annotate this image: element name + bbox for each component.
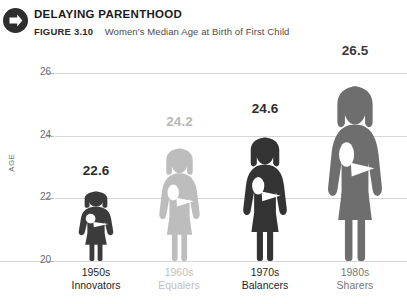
category-label-0: 1950s Innovators	[56, 266, 136, 291]
category-label-2: 1970s Balancers	[225, 266, 305, 291]
gridline-20	[0, 261, 407, 262]
value-label-1: 24.2	[166, 114, 192, 129]
chart-plot-area: 26 24 22 20 AGE 22.6 24.2	[0, 0, 407, 304]
woman-with-baby-icon-1	[148, 138, 211, 261]
category-label-3: 1980s Sharers	[315, 266, 395, 291]
ytick-label-24: 24	[21, 129, 51, 140]
ytick-label-20: 20	[21, 254, 51, 265]
ytick-label-22: 22	[21, 191, 51, 202]
value-label-0: 22.6	[83, 163, 109, 178]
category-label-2-line1: 1970s	[225, 266, 305, 279]
woman-with-baby-icon-3	[313, 70, 397, 261]
category-label-1-line1: 1960s	[139, 266, 219, 279]
pictogram-group-2: 24.6	[231, 126, 299, 261]
woman-with-baby-icon-2	[231, 126, 299, 261]
category-label-0-line1: 1950s	[56, 266, 136, 279]
category-label-3-line2: Sharers	[315, 279, 395, 292]
category-label-3-line1: 1980s	[315, 266, 395, 279]
category-label-2-line2: Balancers	[225, 279, 305, 292]
pictogram-group-1: 24.2	[148, 138, 211, 261]
pictogram-group-3: 26.5	[313, 70, 397, 261]
category-label-1: 1960s Equalers	[139, 266, 219, 291]
value-label-2: 24.6	[252, 101, 278, 116]
value-label-3: 26.5	[342, 43, 368, 58]
y-axis-title: AGE	[7, 141, 16, 185]
category-label-0-line2: Innovators	[56, 279, 136, 292]
category-label-1-line2: Equalers	[139, 279, 219, 292]
pictogram-group-0: 22.6	[69, 185, 123, 261]
ytick-label-26: 26	[21, 66, 51, 77]
woman-with-baby-icon-0	[69, 185, 123, 261]
